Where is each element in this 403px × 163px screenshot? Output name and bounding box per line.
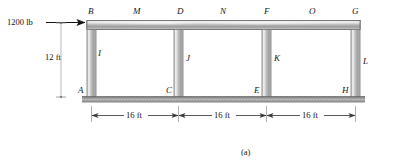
frame-structure-drawing <box>0 0 403 163</box>
span-dimension-label-2: 16 ft <box>214 111 230 120</box>
joint-label-F: F <box>264 7 270 16</box>
beam-overlay-highlight <box>88 21 359 24</box>
joint-label-G: G <box>352 7 359 16</box>
ground-support <box>82 97 365 103</box>
column-member-L <box>351 21 360 98</box>
column-member-K <box>262 21 271 98</box>
member-label-L: L <box>363 57 368 66</box>
member-label-K: K <box>274 54 280 63</box>
member-label-N: N <box>220 7 226 16</box>
span-dimension-label-1: 16 ft <box>126 111 142 120</box>
height-dimension-label: 12 ft <box>45 53 61 62</box>
span-dimension-label-3: 16 ft <box>302 111 318 120</box>
member-label-J: J <box>186 54 190 63</box>
frame-diagram-figure: 1200 lb 12 ft 16 ft 16 ft 16 ft B M D N … <box>0 0 403 163</box>
joint-label-A: A <box>78 86 84 95</box>
load-label: 1200 lb <box>7 18 33 27</box>
member-label-O: O <box>309 7 316 16</box>
frame-members <box>87 21 360 98</box>
joint-label-H: H <box>342 86 349 95</box>
column-member-J <box>174 21 183 98</box>
joint-label-B: B <box>88 7 94 16</box>
joint-label-C: C <box>166 86 172 95</box>
column-member-I <box>87 21 96 98</box>
joint-label-E: E <box>254 86 260 95</box>
figure-caption: (a) <box>241 147 250 157</box>
member-label-I: I <box>98 49 101 58</box>
joint-label-D: D <box>177 7 184 16</box>
member-label-M: M <box>133 7 141 16</box>
